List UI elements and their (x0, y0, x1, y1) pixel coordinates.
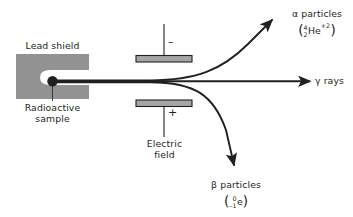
radioactive-sample-line2: sample (7, 114, 98, 125)
beta-atomic-number: –1 (229, 203, 236, 209)
alpha-particles-label: α particles (42He+2) (281, 9, 353, 39)
beta-mass-atomic-stack: 0–1 (229, 196, 236, 209)
beta-paren-close: ) (243, 193, 248, 209)
beta-particles-title: β particles (198, 180, 274, 191)
electric-field-line2: field (120, 150, 209, 161)
alpha-particles-title: α particles (281, 9, 353, 20)
alpha-element-symbol: He (308, 25, 321, 36)
lead-shield-label: Lead shield (16, 41, 89, 52)
radioactive-sample-label: Radioactive sample (7, 103, 98, 125)
positive-plate-sign: + (168, 107, 177, 120)
alpha-nuclide-notation: (42He+2) (298, 22, 336, 38)
gamma-rays-label: γ rays (315, 76, 344, 87)
alpha-charge: +2 (321, 22, 330, 29)
beta-nuclide-notation: (0–1e) (224, 193, 248, 209)
beta-element-symbol: e (237, 196, 243, 207)
negative-plate-sign: – (168, 36, 174, 49)
alpha-paren-close: ) (330, 22, 335, 38)
radioactive-decay-diagram: Lead shield Radioactive sample – + Elect… (0, 0, 353, 217)
radioactive-sample-dot (47, 76, 57, 86)
beta-particles-label: β particles (0–1e) (198, 180, 274, 210)
electric-field-label: Electric field (120, 139, 209, 161)
alpha-mass-atomic-stack: 42 (304, 25, 308, 38)
alpha-atomic-number: 2 (304, 32, 308, 38)
